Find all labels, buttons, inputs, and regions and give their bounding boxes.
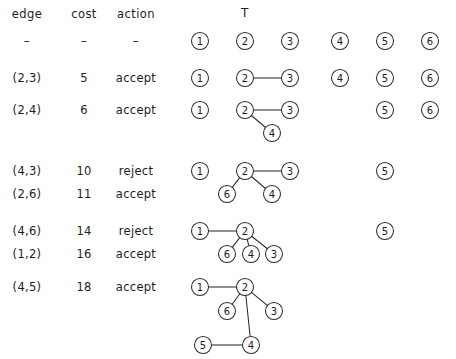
graph-node-label-3: 3 [287,36,293,47]
graph-node-label-1: 1 [197,73,203,84]
forest-state-row-0: 123456 [192,33,439,50]
graph-node-label-3: 3 [287,73,293,84]
graph-node-label-2: 2 [242,105,248,116]
forest-state-row-7: 123456 [192,279,283,354]
graph-node-label-2: 2 [242,226,248,237]
graph-node-label-5: 5 [382,36,388,47]
graph-node-label-1: 1 [197,226,203,237]
graph-node-label-1: 1 [197,36,203,47]
graph-node-label-3: 3 [271,306,277,317]
graph-node-label-4: 4 [337,73,343,84]
graph-node-label-5: 5 [382,166,388,177]
graph-node-label-3: 3 [271,249,277,260]
forest-state-row-1: 123456 [192,70,439,87]
graph-node-label-4: 4 [269,189,275,200]
graph-node-label-1: 1 [197,282,203,293]
graph-node-label-4: 4 [269,128,275,139]
tree-edge-2-4 [246,295,250,336]
forest-state-row-5: 123456 [192,223,394,263]
graph-node-label-4: 4 [337,36,343,47]
graph-node-label-1: 1 [197,166,203,177]
tree-edge-2-4 [247,239,249,246]
graph-node-label-5: 5 [382,105,388,116]
graph-node-label-5: 5 [200,340,206,351]
graph-node-label-6: 6 [224,249,230,260]
graph-node-label-5: 5 [382,226,388,237]
graph-node-label-6: 6 [427,105,433,116]
graph-node-label-2: 2 [242,36,248,47]
graph-node-label-4: 4 [248,249,254,260]
tree-edge-2-3 [252,292,268,305]
tree-edge-2-6 [232,294,240,304]
tree-edge-2-4 [251,116,265,128]
graph-node-label-3: 3 [287,105,293,116]
graph-node-label-6: 6 [224,306,230,317]
graph-node-label-5: 5 [382,73,388,84]
graph-node-label-2: 2 [242,166,248,177]
graph-node-label-3: 3 [287,166,293,177]
graph-node-label-6: 6 [427,36,433,47]
forest-state-row-3: 123456 [192,163,394,203]
forest-graph-layer: 123456123456123456123456123456123456 [0,0,456,359]
graph-node-label-2: 2 [242,282,248,293]
graph-node-label-6: 6 [427,73,433,84]
graph-node-label-2: 2 [242,73,248,84]
tree-edge-2-4 [251,177,265,189]
graph-node-label-4: 4 [248,340,254,351]
tree-edge-2-6 [232,178,240,188]
kruskal-algorithm-figure: edge cost action T –––(2,3)5accept(2,4)6… [0,0,456,359]
forest-state-row-2: 123456 [192,102,439,142]
graph-node-label-6: 6 [224,189,230,200]
graph-node-label-1: 1 [197,105,203,116]
tree-edge-2-6 [232,238,240,248]
